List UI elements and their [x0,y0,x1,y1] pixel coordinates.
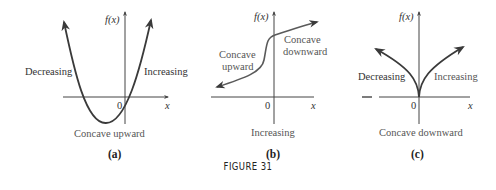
panel-a-bottom-label: Concave upward [74,128,146,139]
panel-c-right-label: Increasing [434,71,478,82]
panel-c-x-axis-label: x [467,100,473,111]
panel-c-left-label: Decreasing [358,71,406,82]
panel-b-right-label-line2: downward [283,46,328,57]
panel-c-caption: (c) [411,148,424,161]
panel-c-bottom-label: Concave downward [379,127,463,138]
panel-a-left-label: Decreasing [25,66,73,77]
panel-a-parabola-curve [64,20,151,123]
panel-b-left-label-line1: Concave [219,49,256,60]
panel-a-x-axis-label: x [164,100,170,111]
panel-c: f(x) x 0 Decreasing Increasing Concave d… [358,11,478,161]
panel-b-left-label-line2: upward [222,61,254,72]
panel-a: f(x) x 0 Decreasing Increasing Concave u… [25,12,188,161]
panel-b-x-axis-label: x [310,100,316,111]
panel-b-y-axis-label: f(x) [254,11,269,23]
panel-a-origin-label: 0 [117,100,122,111]
panel-c-y-axis-label: f(x) [399,11,414,23]
panel-a-right-label: Increasing [144,66,188,77]
panel-b-right-label-line1: Concave [284,34,321,45]
figure-title: FIGURE 31 [37,161,459,172]
panel-a-y-axis-label: f(x) [105,14,120,26]
panel-b-caption: (b) [266,148,280,161]
panel-c-origin-label: 0 [411,100,416,111]
panel-b-origin-label: 0 [265,100,270,111]
panel-a-caption: (a) [108,148,122,161]
panel-b: f(x) x 0 Concave upward Concave downward… [211,11,328,161]
panel-b-bottom-label: Increasing [251,127,295,138]
